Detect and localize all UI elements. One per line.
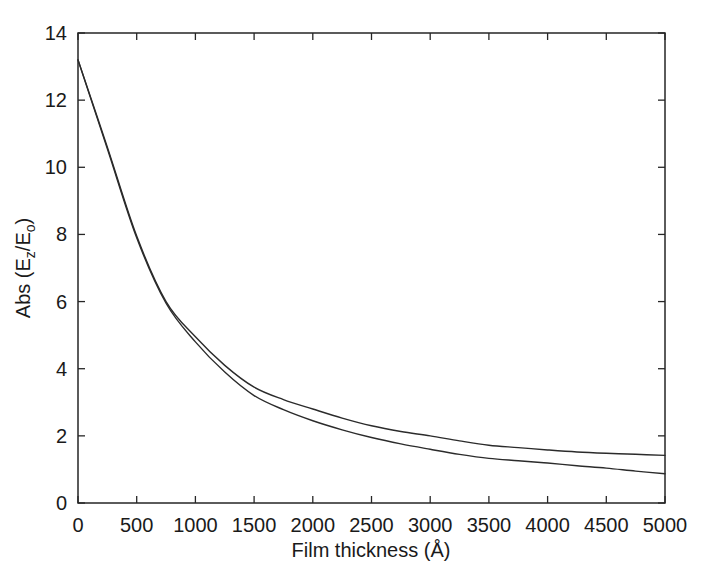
x-tick-label: 3000: [408, 514, 453, 536]
y-axis-title-suffix: ): [12, 218, 34, 225]
y-axis-title-prefix: Abs (E: [12, 258, 34, 318]
curve-upper-curve: [78, 60, 665, 455]
x-tick-label: 1500: [232, 514, 277, 536]
y-tick-label: 6: [56, 291, 67, 313]
line-chart-figure: 0500100015002000250030003500400045005000…: [0, 0, 710, 583]
chart-canvas: 0500100015002000250030003500400045005000…: [0, 0, 710, 583]
x-tick-label: 0: [72, 514, 83, 536]
x-tick-label: 500: [120, 514, 153, 536]
x-tick-label: 4000: [525, 514, 570, 536]
x-tick-label: 2000: [291, 514, 336, 536]
x-tick-label: 1000: [173, 514, 218, 536]
y-tick-label: 14: [45, 22, 67, 44]
x-tick-label: 4500: [584, 514, 629, 536]
plot-area: 0500100015002000250030003500400045005000…: [45, 22, 688, 536]
y-tick-label: 2: [56, 425, 67, 447]
x-tick-label: 3500: [467, 514, 512, 536]
y-tick-label: 10: [45, 156, 67, 178]
plot-box: [78, 33, 665, 503]
curve-lower-curve: [78, 60, 665, 474]
y-tick-label: 4: [56, 358, 67, 380]
y-axis-title: Abs (Ez/Eo): [12, 218, 38, 318]
x-axis-title: Film thickness (Å): [292, 539, 451, 561]
y-tick-label: 0: [56, 492, 67, 514]
x-tick-label: 2500: [349, 514, 394, 536]
y-tick-label: 8: [56, 223, 67, 245]
y-axis-title-sub-z: z: [22, 251, 38, 258]
x-tick-label: 5000: [643, 514, 688, 536]
y-axis-title-mid: /E: [12, 232, 34, 251]
y-axis-title-sub-o: o: [22, 224, 38, 232]
y-tick-label: 12: [45, 89, 67, 111]
